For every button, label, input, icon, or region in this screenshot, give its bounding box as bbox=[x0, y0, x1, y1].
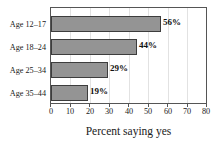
value-label-age-12-17: 56% bbox=[163, 17, 181, 27]
value-label-age-25-34: 29% bbox=[110, 63, 128, 73]
category-axis-labels: Age 12–17 Age 18–24 Age 25–34 Age 35–44 bbox=[0, 7, 49, 104]
category-label-age-12-17: Age 12–17 bbox=[0, 20, 46, 29]
bar-age-18-24 bbox=[51, 39, 137, 55]
category-label-age-18-24: Age 18–24 bbox=[0, 43, 46, 52]
value-label-age-18-24: 44% bbox=[139, 40, 157, 50]
bar-age-35-44 bbox=[51, 85, 88, 101]
bar-age-25-34 bbox=[51, 62, 108, 78]
tick-label-30: 30 bbox=[105, 107, 113, 117]
x-axis-title: Percent saying yes bbox=[50, 124, 207, 138]
bar-chart: Age 12–17 Age 18–24 Age 25–34 Age 35–44 … bbox=[0, 0, 218, 145]
tick-label-40: 40 bbox=[125, 107, 133, 117]
value-label-age-35-44: 19% bbox=[90, 86, 108, 96]
tick-label-80: 80 bbox=[202, 107, 210, 117]
bar-age-12-17 bbox=[51, 16, 161, 32]
tick-label-70: 70 bbox=[183, 107, 191, 117]
category-label-age-25-34: Age 25–34 bbox=[0, 66, 46, 75]
tick-label-50: 50 bbox=[144, 107, 152, 117]
plot-area bbox=[50, 7, 207, 104]
tick-label-10: 10 bbox=[66, 107, 74, 117]
tick-label-60: 60 bbox=[164, 107, 172, 117]
tick-label-20: 20 bbox=[86, 107, 94, 117]
category-label-age-35-44: Age 35–44 bbox=[0, 89, 46, 98]
gridline-70 bbox=[187, 8, 188, 103]
tick-label-0: 0 bbox=[49, 107, 53, 117]
